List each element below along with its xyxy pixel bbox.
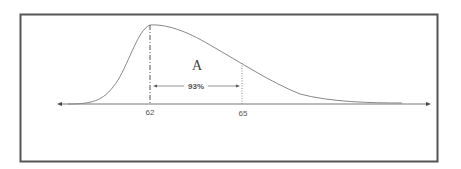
diagram-canvas: A 93% 62 65 [0,0,461,169]
tick-label-65: 65 [239,109,248,118]
diagram-frame [21,15,438,162]
tick-label-62: 62 [146,108,155,117]
region-label: A [192,58,203,73]
percent-label: 93% [188,82,204,91]
